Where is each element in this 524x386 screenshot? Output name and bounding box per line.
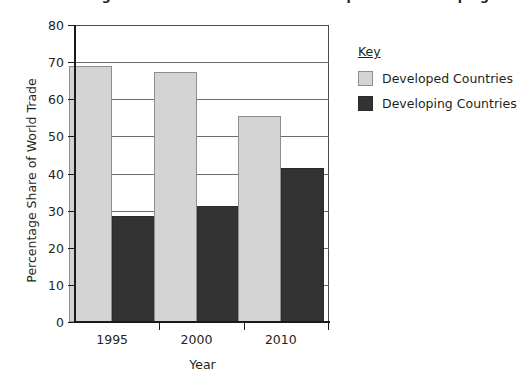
y-axis-tick [68,62,76,63]
gridline [76,99,329,100]
y-axis-tick [68,322,76,323]
legend-swatch-developing-icon [358,96,373,111]
y-axis-tick [68,25,76,26]
x-axis-tick-label: 1995 [96,332,128,347]
bar-2000-developed [154,72,197,322]
y-axis-tick [68,248,76,249]
bar-chart-figure: Percentage Share of World Trade of Devel… [0,0,524,386]
legend-entries: Developed CountriesDeveloping Countries [358,71,524,111]
bar-2010-developing [281,168,324,322]
legend-title: Key [358,44,524,59]
y-axis-tick-label: 70 [40,55,64,70]
bar-2010-developed [238,116,281,322]
legend-item: Developed Countries [358,71,524,86]
y-axis-tick-label: 40 [40,166,64,181]
y-axis-tick-label: 10 [40,277,64,292]
y-axis-tick [68,99,76,100]
y-axis-tick-label: 0 [40,315,64,330]
chart-title: Percentage Share of World Trade of Devel… [38,0,338,3]
legend: Key Developed CountriesDeveloping Countr… [358,44,524,121]
plot-area [76,25,329,322]
legend-swatch-developed-icon [358,71,373,86]
y-axis-title: Percentage Share of World Trade [24,66,39,296]
y-axis-tick-label: 80 [40,18,64,33]
legend-item-label: Developing Countries [382,96,517,111]
x-axis-tick-label: 2010 [265,332,297,347]
y-axis-tick [68,285,76,286]
y-axis-tick [68,211,76,212]
bar-2000-developing [197,206,240,322]
y-axis-tick-label: 20 [40,240,64,255]
x-axis-tick-label: 2000 [181,332,213,347]
gridline [76,62,329,63]
legend-item: Developing Countries [358,96,524,111]
y-axis-tick-label: 60 [40,92,64,107]
x-axis-line [74,321,330,323]
legend-item-label: Developed Countries [382,71,513,86]
y-axis-tick [68,174,76,175]
x-axis-title: Year [76,357,329,372]
x-axis-tick [244,321,245,330]
y-axis-tick-label: 50 [40,129,64,144]
x-axis-tick [328,321,329,330]
y-axis-tick [68,136,76,137]
bar-1995-developing [112,216,155,322]
gridline [76,136,329,137]
x-axis-tick [159,321,160,330]
y-axis-tick-label: 30 [40,203,64,218]
